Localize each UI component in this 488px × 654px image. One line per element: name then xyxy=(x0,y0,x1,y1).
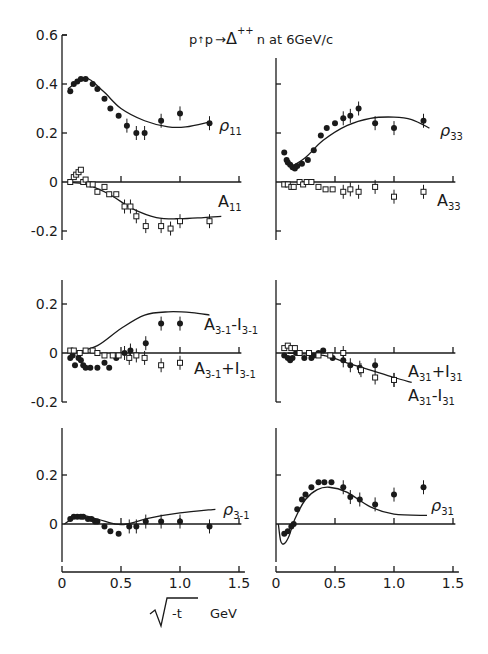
data-point-filled xyxy=(340,115,346,121)
data-point-open xyxy=(159,224,164,229)
y-tick-label: -0.2 xyxy=(31,394,58,410)
svg-text:-t: -t xyxy=(172,606,182,621)
data-point-filled xyxy=(421,484,427,490)
data-point-open xyxy=(292,346,297,351)
series-label-A3m1_plus: A3-1+I3-1 xyxy=(194,359,256,380)
x-tick-label: 1.0 xyxy=(169,575,191,591)
data-point-filled xyxy=(285,528,291,534)
data-point-open xyxy=(178,219,183,224)
data-point-open xyxy=(134,353,139,358)
data-point-open xyxy=(330,187,335,192)
data-point-filled xyxy=(124,123,130,129)
data-point-filled xyxy=(101,523,107,529)
data-point-filled xyxy=(324,125,330,131)
data-point-filled xyxy=(357,497,363,503)
data-point-filled xyxy=(116,113,122,119)
data-point-filled xyxy=(308,484,314,490)
x-tick-label: 0 xyxy=(272,575,281,591)
data-point-open xyxy=(356,189,361,194)
data-point-filled xyxy=(94,365,100,371)
data-point-filled xyxy=(356,106,362,112)
data-point-filled xyxy=(133,523,139,529)
data-point-filled xyxy=(372,120,378,126)
y-tick-label: 0.4 xyxy=(36,76,58,92)
data-point-filled xyxy=(177,321,183,327)
fit-curve xyxy=(68,78,210,128)
data-point-open xyxy=(127,355,132,360)
data-point-filled xyxy=(421,118,427,124)
data-point-open xyxy=(68,180,73,185)
data-point-open xyxy=(116,353,121,358)
data-point-filled xyxy=(347,494,353,500)
data-point-open xyxy=(328,353,333,358)
fit-curve xyxy=(290,117,429,167)
data-point-filled xyxy=(290,355,296,361)
data-point-open xyxy=(207,219,212,224)
y-tick-label: 0.6 xyxy=(36,27,58,43)
data-point-open xyxy=(168,226,173,231)
data-point-open xyxy=(373,375,378,380)
data-point-filled xyxy=(315,479,321,485)
svg-text:GeV: GeV xyxy=(210,606,237,621)
data-point-filled xyxy=(311,147,317,153)
series-label-A3m1_minus: A3-1-I3-1 xyxy=(204,315,258,336)
y-tick-label: 0 xyxy=(49,516,58,532)
data-point-filled xyxy=(158,118,164,124)
data-point-open xyxy=(373,184,378,189)
data-point-open xyxy=(78,167,83,172)
data-point-filled xyxy=(372,362,378,368)
data-point-filled xyxy=(391,125,397,131)
data-point-filled xyxy=(72,362,78,368)
y-tick-label: 0.2 xyxy=(36,467,58,483)
data-point-open xyxy=(323,187,328,192)
data-point-filled xyxy=(372,501,378,507)
x-tick-label: 1.5 xyxy=(228,575,250,591)
figure: p↑p→Δ++n at 6GeV/c 0.60.40.20-0.20.20-0.… xyxy=(0,0,488,654)
panel-top-right xyxy=(276,58,455,240)
data-point-open xyxy=(95,351,100,356)
data-point-filled xyxy=(207,120,213,126)
data-point-filled xyxy=(101,360,107,366)
x-tick-label: 0.5 xyxy=(324,575,346,591)
series-label-A31_minus: A31-I31 xyxy=(408,386,455,407)
x-tick-label: 0 xyxy=(58,575,67,591)
data-point-filled xyxy=(391,492,397,498)
data-point-filled xyxy=(347,362,353,368)
data-point-filled xyxy=(332,120,338,126)
series-label-A11: A11 xyxy=(218,192,242,213)
y-tick-label: -0.2 xyxy=(31,223,58,239)
data-point-open xyxy=(291,184,296,189)
x-tick-label: 0.5 xyxy=(110,575,132,591)
panel-middle-left: 0.20-0.2 xyxy=(31,280,242,410)
data-point-filled xyxy=(94,519,100,525)
data-point-open xyxy=(341,351,346,356)
data-point-open xyxy=(95,189,100,194)
data-point-open xyxy=(77,351,82,356)
x-tick-label: 1.5 xyxy=(442,575,464,591)
panel-middle-right xyxy=(276,280,455,402)
data-point-filled xyxy=(294,506,300,512)
data-point-filled xyxy=(305,157,311,163)
data-point-open xyxy=(143,224,148,229)
data-point-filled xyxy=(158,321,164,327)
data-point-open xyxy=(307,351,312,356)
data-point-open xyxy=(83,348,88,353)
data-point-filled xyxy=(107,106,113,112)
data-point-open xyxy=(122,204,127,209)
data-point-open xyxy=(102,353,107,358)
y-tick-label: 0.2 xyxy=(36,125,58,141)
x-tick-label: 1.0 xyxy=(383,575,405,591)
data-point-filled xyxy=(106,365,112,371)
data-point-filled xyxy=(107,528,113,534)
data-point-open xyxy=(309,180,314,185)
data-point-open xyxy=(114,192,119,197)
svg-text:p↑p→Δ++n at 6GeV/c: p↑p→Δ++n at 6GeV/c xyxy=(189,25,333,48)
data-point-open xyxy=(348,187,353,192)
data-point-filled xyxy=(347,113,353,119)
data-point-open xyxy=(297,351,302,356)
data-point-filled xyxy=(207,523,213,529)
data-point-filled xyxy=(94,86,100,92)
data-point-filled xyxy=(142,130,148,136)
data-point-open xyxy=(142,355,147,360)
data-point-filled xyxy=(321,479,327,485)
